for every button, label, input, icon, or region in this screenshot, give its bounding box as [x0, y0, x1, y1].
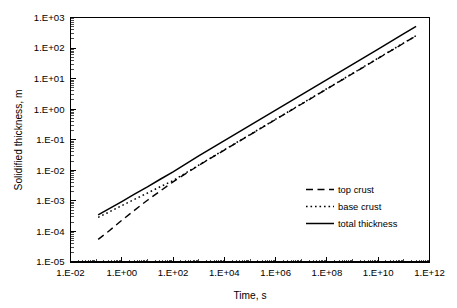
y-tick-label: 1.E+01 [34, 73, 65, 84]
x-axis-title: Time, s [233, 290, 266, 301]
y-tick-label: 1.E+03 [34, 12, 65, 23]
x-tick-label: 1.E+06 [260, 267, 291, 278]
x-tick-label: 1.E+02 [158, 267, 189, 278]
chart-container: 1.E-051.E-041.E-031.E-021.E-011.E+001.E+… [0, 0, 457, 308]
legend-label-top-crust: top crust [338, 184, 374, 195]
x-tick-label: 1.E-02 [56, 267, 84, 278]
x-tick-label: 1.E+08 [312, 267, 343, 278]
x-tick-label: 1.E+12 [414, 267, 445, 278]
x-tick-label: 1.E+04 [209, 267, 240, 278]
y-tick-label: 1.E+00 [34, 104, 65, 115]
y-tick-label: 1.E+02 [34, 42, 65, 53]
legend-label-total-thickness: total thickness [338, 218, 398, 229]
y-tick-label: 1.E-03 [36, 195, 64, 206]
x-tick-label: 1.E+10 [363, 267, 394, 278]
y-tick-label: 1.E-05 [36, 256, 64, 267]
x-tick-label: 1.E+00 [106, 267, 137, 278]
y-axis-tick-labels: 1.E-051.E-041.E-031.E-021.E-011.E+001.E+… [34, 12, 65, 268]
y-tick-label: 1.E-04 [36, 226, 65, 237]
y-tick-label: 1.E-01 [36, 134, 64, 145]
y-axis-title: Solidified thickness, m [13, 90, 24, 191]
legend-label-base-crust: base crust [338, 201, 382, 212]
y-tick-label: 1.E-02 [36, 165, 64, 176]
log-log-line-chart: 1.E-051.E-041.E-031.E-021.E-011.E+001.E+… [0, 0, 457, 308]
